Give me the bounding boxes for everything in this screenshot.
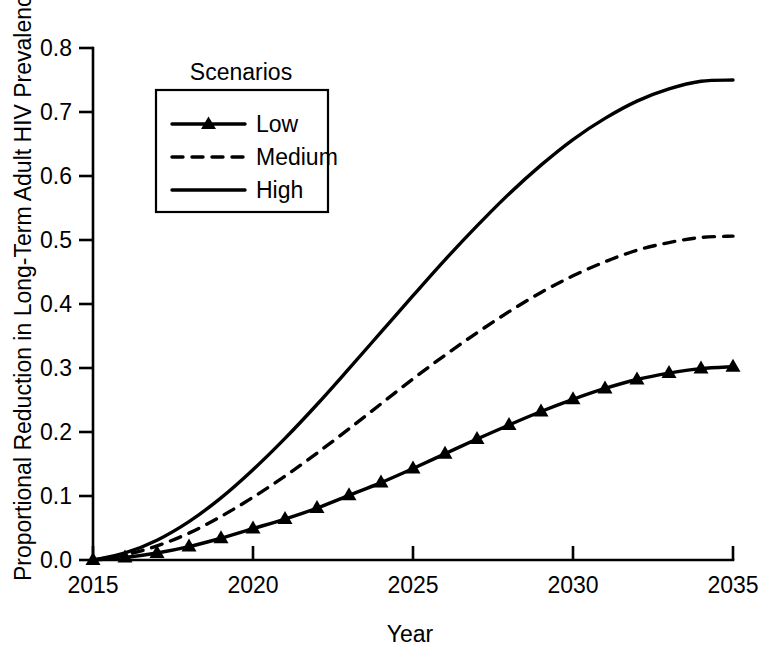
chart-figure: Proportional Reduction in Long-Term Adul… — [0, 0, 780, 663]
legend-label-low: Low — [256, 111, 299, 137]
series-marker-low — [726, 359, 741, 372]
x-tick-label: 2030 — [547, 572, 598, 598]
legend-entry-low[interactable]: Low — [172, 111, 299, 137]
y-tick-label: 0.0 — [40, 547, 72, 573]
y-tick-label: 0.5 — [40, 227, 72, 253]
legend-label-medium: Medium — [256, 144, 338, 170]
series-line-medium — [93, 236, 733, 560]
series-markers-low — [86, 359, 741, 565]
y-tick-label: 0.8 — [40, 35, 72, 61]
y-tick-label: 0.7 — [40, 99, 72, 125]
legend-label-high: High — [256, 177, 303, 203]
y-tick-label: 0.4 — [40, 291, 72, 317]
legend-entry-high[interactable]: High — [172, 177, 303, 203]
y-axis-tick-labels: 0.0 0.1 0.2 0.3 0.4 0.5 0.6 0.7 0.8 — [40, 35, 72, 573]
legend-entry-medium[interactable]: Medium — [172, 144, 338, 170]
legend-title: Scenarios — [190, 59, 292, 85]
y-tick-label: 0.6 — [40, 163, 72, 189]
y-tick-label: 0.1 — [40, 483, 72, 509]
y-tick-label: 0.3 — [40, 355, 72, 381]
legend: Scenarios Low Medium High — [156, 59, 338, 212]
data-series-group — [86, 80, 741, 565]
y-axis-title: Proportional Reduction in Long-Term Adul… — [10, 0, 36, 581]
x-axis-tick-labels: 2015 2020 2025 2030 2035 — [67, 572, 758, 598]
x-tick-label: 2035 — [707, 572, 758, 598]
y-axis-ticks — [79, 48, 93, 560]
line-chart: Proportional Reduction in Long-Term Adul… — [0, 0, 780, 663]
y-tick-label: 0.2 — [40, 419, 72, 445]
x-tick-label: 2015 — [67, 572, 118, 598]
series-line-high — [93, 80, 733, 560]
x-tick-label: 2020 — [227, 572, 278, 598]
x-axis-title: Year — [387, 621, 434, 647]
x-tick-label: 2025 — [387, 572, 438, 598]
